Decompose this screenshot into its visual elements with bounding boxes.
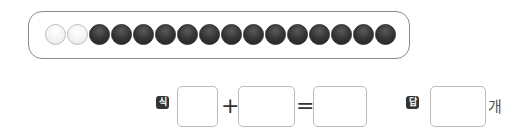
black-counter-bead: [353, 24, 374, 45]
bead-row: [45, 24, 396, 45]
answer-label-badge: 답: [406, 96, 419, 109]
plus-sign: +: [221, 95, 239, 117]
addend1-input[interactable]: [177, 86, 218, 127]
addend2-input[interactable]: [238, 86, 295, 127]
black-counter-bead: [89, 24, 110, 45]
black-counter-bead: [155, 24, 176, 45]
black-counter-bead: [133, 24, 154, 45]
black-counter-bead: [375, 24, 396, 45]
black-counter-bead: [221, 24, 242, 45]
result-input[interactable]: [313, 86, 367, 127]
black-counter-bead: [265, 24, 286, 45]
black-counter-bead: [111, 24, 132, 45]
black-counter-bead: [287, 24, 308, 45]
black-counter-bead: [331, 24, 352, 45]
black-counter-bead: [177, 24, 198, 45]
answer-input[interactable]: [430, 86, 486, 127]
equals-sign: =: [296, 95, 314, 117]
black-counter-bead: [199, 24, 220, 45]
unit-label: 개: [488, 95, 502, 116]
black-counter-bead: [243, 24, 264, 45]
expression-label-badge: 식: [156, 96, 169, 109]
black-counter-bead: [309, 24, 330, 45]
white-counter-bead: [45, 24, 66, 45]
white-counter-bead: [67, 24, 88, 45]
